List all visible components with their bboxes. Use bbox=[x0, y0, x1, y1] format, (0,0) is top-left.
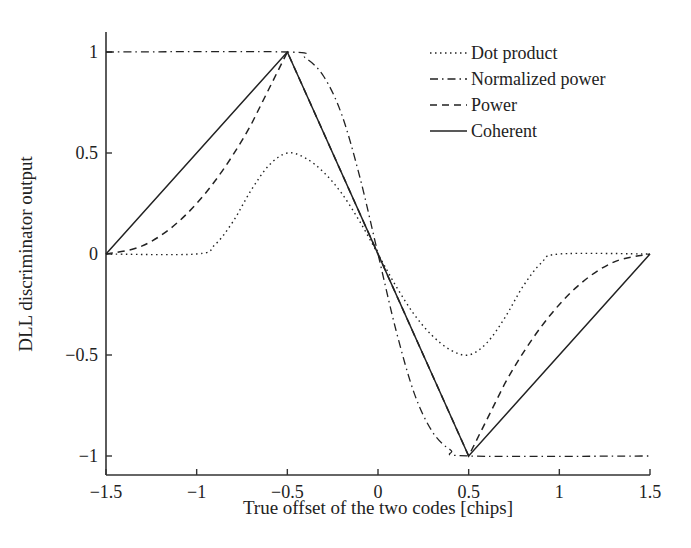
x-tick-label: 1.5 bbox=[639, 482, 662, 502]
x-tick-label: 1 bbox=[555, 482, 564, 502]
x-axis-label: True offset of the two codes [chips] bbox=[243, 497, 513, 518]
legend-label: Coherent bbox=[471, 121, 537, 141]
legend-label: Dot product bbox=[471, 43, 557, 63]
y-tick-label: 0 bbox=[89, 244, 98, 264]
legend-label: Power bbox=[471, 95, 517, 115]
axes: −1.5−1−0.500.511.5−1−0.500.51 bbox=[65, 32, 661, 502]
y-tick-label: 0.5 bbox=[76, 143, 99, 163]
y-axis-label: DLL discriminator output bbox=[15, 155, 36, 351]
plot-series bbox=[106, 52, 650, 457]
legend: Dot productNormalized powerPowerCoherent bbox=[430, 43, 605, 141]
series-coherent bbox=[106, 52, 650, 456]
y-tick-label: −0.5 bbox=[65, 345, 98, 365]
y-tick-label: 1 bbox=[89, 42, 98, 62]
legend-label: Normalized power bbox=[471, 69, 605, 89]
x-tick-label: −1.5 bbox=[90, 482, 123, 502]
chart: −1.5−1−0.500.511.5−1−0.500.51 Dot produc… bbox=[0, 0, 691, 548]
y-tick-label: −1 bbox=[79, 446, 98, 466]
x-tick-label: −1 bbox=[187, 482, 206, 502]
